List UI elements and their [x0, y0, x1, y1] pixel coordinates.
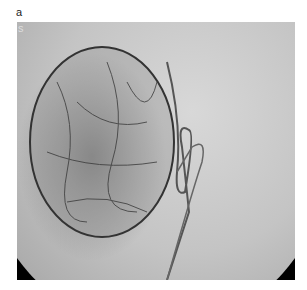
inset-label: s: [18, 22, 24, 34]
panel-label: a: [16, 6, 22, 18]
vessel-overlay: [17, 22, 295, 280]
angiogram-image: s: [17, 22, 295, 280]
